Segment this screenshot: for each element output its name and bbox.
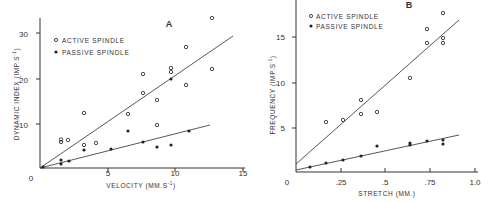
chart-b-panel-label: B	[406, 0, 413, 10]
chart-a-legend-active: ACTIVE SPINDLE	[62, 37, 125, 44]
chart-a-ytick: 10	[19, 121, 28, 130]
chart-a-ytick: 20	[19, 76, 28, 85]
chart-b-xtick: .75	[424, 178, 436, 187]
filled-circle-icon	[54, 50, 57, 53]
chart-b-xlabel: STRETCH (MM.)	[358, 190, 415, 198]
chart-a-passive-points	[41, 77, 190, 168]
chart-b-ytick: 15	[276, 33, 285, 42]
chart-b-legend-passive: PASSIVE SPINDLE	[316, 23, 383, 30]
chart-b-xtick: .5	[382, 178, 389, 187]
chart-a-ylabel: DYNAMIC INDEX (IMP.S-1)	[12, 48, 21, 140]
chart-a-xtick: 15	[239, 169, 248, 178]
chart-b-legend: ACTIVE SPINDLE PASSIVE SPINDLE	[309, 13, 383, 30]
open-circle-icon	[54, 38, 57, 41]
chart-a-passive-fit-line	[40, 125, 210, 168]
chart-a-xlabel: VELOCITY (MM.S-1)	[106, 181, 175, 190]
chart-a-panel-label: A	[166, 19, 173, 29]
chart-a-active-fit-line	[40, 36, 233, 168]
filled-circle-icon	[309, 24, 312, 27]
chart-b-origin-label: 0	[285, 178, 290, 187]
chart-a-xtick: 5	[106, 169, 111, 178]
chart-b-ytick: 5	[281, 124, 286, 133]
chart-a-ytick: 30	[19, 30, 28, 39]
chart-b-legend-active: ACTIVE SPINDLE	[316, 13, 379, 20]
chart-b: 5 10 15 0 .25 .5 .75 1.0 STRETCH (MM.) F…	[268, 0, 481, 198]
chart-b-ylabel: FREQUENCY (IMP.S-1)	[268, 55, 277, 134]
chart-a-xtick: 10	[171, 169, 180, 178]
chart-b-ytick: 10	[276, 79, 285, 88]
chart-a-legend: ACTIVE SPINDLE PASSIVE SPINDLE	[54, 37, 129, 56]
figure: 10 20 30 0 5 10 15 VELOCITY (MM.S-1) DYN…	[0, 0, 491, 202]
chart-a-origin-label: 0	[29, 174, 34, 183]
chart-b-passive-fit-line	[296, 135, 459, 170]
chart-b-xtick: 1.0	[469, 178, 481, 187]
chart-a-legend-passive: PASSIVE SPINDLE	[62, 49, 129, 56]
open-circle-icon	[309, 14, 312, 17]
chart-b-active-fit-line	[296, 20, 459, 164]
chart-a: 10 20 30 0 5 10 15 VELOCITY (MM.S-1) DYN…	[12, 16, 248, 190]
chart-b-xtick: .25	[335, 178, 347, 187]
